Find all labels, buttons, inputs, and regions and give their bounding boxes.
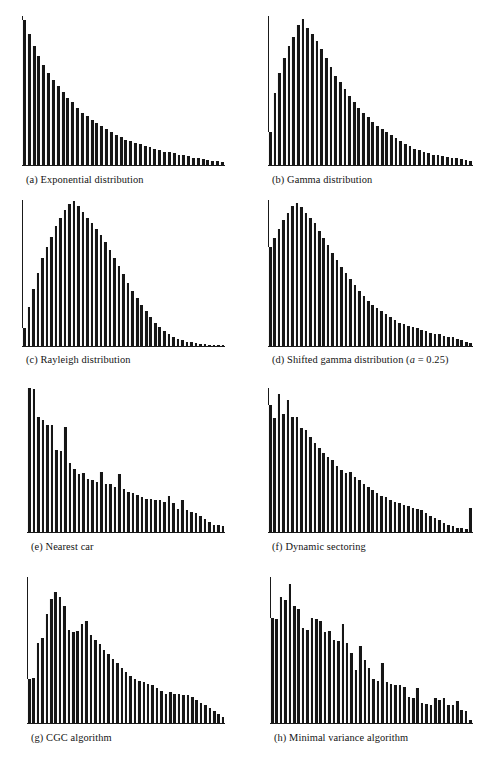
histogram-bar (468, 343, 472, 346)
histogram-bar (379, 496, 383, 532)
histogram-bar (40, 638, 44, 723)
histogram-bar (75, 108, 79, 165)
histogram-bar (54, 450, 58, 532)
histogram-bar (150, 685, 154, 723)
histogram-bar (177, 694, 181, 723)
histogram-bar (157, 150, 161, 165)
histogram-bar (99, 126, 103, 165)
histogram-bar (273, 93, 277, 165)
histogram-bar (318, 621, 322, 723)
histogram-bar (388, 317, 392, 346)
plot-area-d (268, 200, 473, 347)
histogram-bar (120, 668, 124, 723)
histogram-bar (172, 694, 176, 723)
histogram-bar (282, 58, 286, 165)
histogram-bar (210, 161, 214, 165)
histogram-bar (144, 311, 148, 346)
histogram-bar (398, 141, 402, 165)
histogram-bar (305, 630, 309, 723)
histogram-bar (63, 427, 67, 532)
histogram-bar (93, 640, 97, 723)
histogram-bar (389, 135, 393, 165)
plot-area-b (268, 16, 473, 166)
histogram-bar (371, 679, 375, 723)
histogram-bar (180, 500, 184, 532)
histogram-bar (220, 162, 224, 165)
histogram-bar (296, 609, 300, 723)
histogram-bar (397, 503, 401, 532)
histogram-bar (459, 159, 463, 165)
histogram-bar (455, 701, 459, 723)
histogram-bar (339, 470, 343, 532)
histogram-bar (142, 682, 146, 723)
panel-caption-d: (d) Shifted gamma distribution (a = 0.25… (272, 353, 448, 366)
histogram-bar (67, 630, 71, 723)
panel-caption-h: (h) Minimal variance algorithm (274, 731, 408, 744)
bars-d (268, 200, 473, 346)
histogram-bar (111, 659, 115, 723)
histogram-bar (402, 324, 406, 346)
histogram-figure: (a) Exponential distribution (b) Gamma d… (0, 0, 495, 759)
histogram-bar (362, 296, 366, 346)
panel-caption-f: (f) Dynamic sectoring (272, 540, 366, 553)
histogram-bar (94, 123, 98, 165)
plot-area-c (22, 200, 225, 347)
histogram-bar (281, 220, 285, 346)
histogram-bar (450, 158, 454, 165)
histogram-bar (380, 663, 384, 723)
histogram-bar (27, 307, 31, 346)
histogram-bar (140, 497, 144, 532)
histogram-bar (62, 606, 66, 723)
histogram-bar (72, 201, 76, 346)
histogram-bar (370, 122, 374, 165)
histogram-bar (442, 336, 446, 346)
histogram-bar (313, 223, 317, 346)
histogram-bar (268, 405, 272, 532)
histogram-bar (104, 129, 108, 165)
histogram-bar (51, 80, 55, 165)
panel-caption-d-main: (d) Shifted gamma distribution ( (272, 354, 410, 365)
histogram-bar (317, 448, 321, 532)
panel-caption-c: (c) Rayleigh distribution (26, 353, 131, 366)
histogram-bar (313, 443, 317, 532)
histogram-bar (411, 327, 415, 346)
histogram-bar (198, 516, 202, 532)
histogram-bar (332, 640, 336, 723)
histogram-bar (95, 482, 99, 532)
histogram-bar (451, 337, 455, 346)
histogram-bar (436, 155, 440, 165)
histogram-bar (279, 597, 283, 723)
histogram-bar (468, 161, 472, 165)
histogram-bar (411, 698, 415, 723)
histogram-bar (212, 345, 216, 346)
histogram-bar (349, 653, 353, 723)
histogram-bar (205, 160, 209, 165)
histogram-bar (286, 400, 290, 532)
histogram-bar (442, 523, 446, 532)
histogram-bar (304, 213, 308, 346)
histogram-bar (419, 510, 423, 532)
histogram-bar (180, 340, 184, 346)
histogram-bar (122, 489, 126, 532)
histogram-bar (464, 160, 468, 165)
histogram-bar (274, 619, 278, 723)
histogram-bar (148, 147, 152, 165)
plot-area-e (27, 388, 225, 533)
histogram-bar (455, 528, 459, 532)
histogram-bar (315, 41, 319, 165)
histogram-bar (99, 472, 103, 532)
histogram-bar (305, 28, 309, 165)
histogram-bar (221, 717, 225, 723)
histogram-bar (330, 253, 334, 346)
histogram-bar (139, 305, 143, 346)
histogram-bar (45, 247, 49, 346)
histogram-bar (446, 337, 450, 346)
histogram-bar (299, 207, 303, 346)
histogram-bar (189, 342, 193, 346)
histogram-bar (22, 328, 26, 346)
histogram-bar (314, 619, 318, 723)
panel-e: (e) Nearest car (0, 380, 248, 567)
histogram-bar (451, 526, 455, 532)
x-axis-c (22, 346, 225, 347)
histogram-bar (286, 213, 290, 346)
